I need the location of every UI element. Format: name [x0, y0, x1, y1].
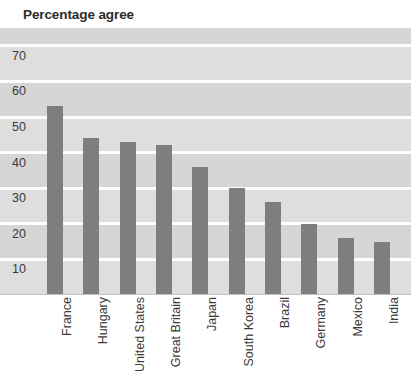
- bar: [156, 145, 172, 295]
- bar-chart-figure: Percentage agree 70605040302010 FranceHu…: [0, 0, 411, 389]
- x-tick-label: Hungary: [97, 297, 110, 344]
- bar: [265, 202, 281, 295]
- x-tick-label: Brazil: [279, 297, 292, 328]
- background-band: [0, 28, 411, 46]
- y-tick-label: 50: [12, 121, 26, 134]
- x-tick-label: France: [61, 297, 74, 336]
- y-tick-label: 70: [12, 50, 26, 63]
- gridline: [0, 44, 411, 47]
- y-tick-label: 40: [12, 157, 26, 170]
- bar: [229, 188, 245, 295]
- gridline: [0, 80, 411, 83]
- y-tick-label: 10: [12, 263, 26, 276]
- x-tick-label: South Korea: [243, 297, 256, 367]
- y-tick-label: 30: [12, 192, 26, 205]
- plot-area: 70605040302010: [0, 28, 411, 295]
- background-band: [0, 46, 411, 82]
- x-axis-tick-labels: FranceHungaryUnited StatesGreat BritainJ…: [0, 295, 411, 389]
- y-tick-label: 20: [12, 228, 26, 241]
- x-tick-label: India: [388, 297, 401, 324]
- bar: [47, 106, 63, 295]
- bar: [338, 238, 354, 295]
- x-tick-label: Japan: [206, 297, 219, 331]
- bar: [83, 138, 99, 295]
- bar: [120, 142, 136, 295]
- x-tick-label: Germany: [315, 297, 328, 348]
- chart-title: Percentage agree: [23, 7, 134, 22]
- x-tick-label: Great Britain: [170, 297, 183, 367]
- bar: [301, 224, 317, 295]
- bar: [192, 167, 208, 295]
- x-tick-label: Mexico: [352, 297, 365, 337]
- bar: [374, 242, 390, 295]
- y-tick-label: 60: [12, 85, 26, 98]
- x-tick-label: United States: [134, 297, 147, 372]
